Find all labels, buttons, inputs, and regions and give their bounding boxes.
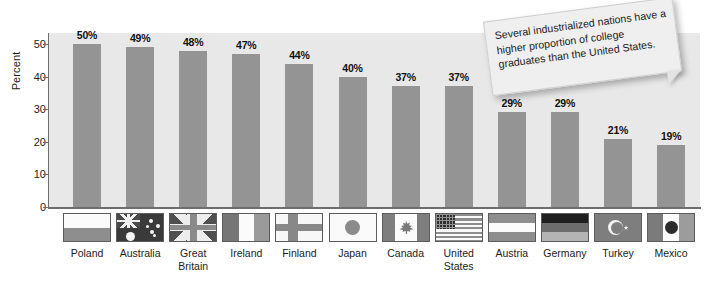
flag-cell [488, 213, 536, 242]
flag-canada-icon [382, 213, 430, 242]
flag-cell [63, 213, 111, 242]
bar[interactable] [232, 54, 260, 207]
flag-cell [435, 213, 483, 242]
category-label-line1: Japan [338, 247, 367, 259]
bar[interactable] [339, 77, 367, 207]
category-label-line2: States [444, 260, 474, 272]
flag-cell [594, 213, 642, 242]
callout-text: Several industrialized nations have a hi… [494, 6, 672, 72]
category-label-line2: Britain [178, 260, 208, 272]
flag-cell [116, 213, 164, 242]
y-axis-tick-mark [43, 109, 49, 110]
flag-germany-icon [541, 213, 589, 242]
bar-value-label: 37% [383, 71, 429, 83]
category-label-line1: Ireland [230, 247, 262, 259]
y-axis-title: Percent [10, 31, 26, 111]
y-axis-tick-mark [43, 44, 49, 45]
flag-turkey-icon [594, 213, 642, 242]
bar-chart: Percent 01020304050 50%49%48%47%44%40%37… [0, 0, 714, 288]
flag-cell [329, 213, 377, 242]
flag-finland-icon [275, 213, 323, 242]
bar[interactable] [604, 139, 632, 207]
bar[interactable] [126, 47, 154, 207]
bar-value-label: 44% [276, 49, 322, 61]
flag-cell [169, 213, 217, 242]
bar-value-label: 50% [64, 29, 110, 41]
category-label-line1: Australia [120, 247, 161, 259]
bar-value-label: 40% [330, 62, 376, 74]
bar[interactable] [285, 64, 313, 207]
category-label-line1: Canada [387, 247, 424, 259]
x-axis-line [48, 207, 701, 209]
bar-value-label: 21% [595, 124, 641, 136]
category-label-line1: United [444, 247, 474, 259]
bar-value-label: 47% [223, 39, 269, 51]
bar[interactable] [551, 112, 579, 207]
flag-cell [382, 213, 430, 242]
category-label-line1: Finland [282, 247, 316, 259]
flag-great-britain-icon [169, 213, 217, 242]
callout-fold-corner [667, 69, 684, 85]
y-axis-tick-mark [43, 174, 49, 175]
category-label-line1: Germany [543, 247, 586, 259]
bar-value-label: 37% [436, 71, 482, 83]
bar[interactable] [498, 112, 526, 207]
category-label: Mexico [640, 247, 702, 260]
category-label-line1: Austria [495, 247, 528, 259]
y-axis-tick-mark [43, 77, 49, 78]
category-label-line1: Great [180, 247, 206, 259]
bar[interactable] [179, 51, 207, 207]
flag-australia-icon [116, 213, 164, 242]
category-label-line1: Poland [71, 247, 104, 259]
flag-japan-icon [329, 213, 377, 242]
flag-mexico-icon [647, 213, 695, 242]
bar-value-label: 29% [542, 97, 588, 109]
flag-cell [222, 213, 270, 242]
y-axis-line [48, 33, 49, 208]
flag-cell [647, 213, 695, 242]
bar[interactable] [445, 86, 473, 207]
category-label-line1: Mexico [654, 247, 687, 259]
bar[interactable] [392, 86, 420, 207]
bar-value-label: 29% [489, 97, 535, 109]
flag-ireland-icon [222, 213, 270, 242]
bar[interactable] [657, 145, 685, 207]
bar-value-label: 49% [117, 32, 163, 44]
flag-united-states-icon [435, 213, 483, 242]
flag-poland-icon [63, 213, 111, 242]
category-label-line1: Turkey [602, 247, 634, 259]
bar-value-label: 48% [170, 36, 216, 48]
flag-cell [541, 213, 589, 242]
flag-austria-icon [488, 213, 536, 242]
bar-value-label: 19% [648, 130, 694, 142]
y-axis-tick-mark [43, 142, 49, 143]
bar[interactable] [73, 44, 101, 207]
flag-cell [275, 213, 323, 242]
y-axis-tick-mark [43, 207, 49, 208]
